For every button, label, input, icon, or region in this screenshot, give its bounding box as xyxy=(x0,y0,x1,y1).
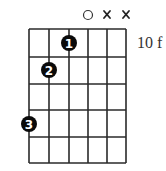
finger-dot-3: 3 xyxy=(21,116,37,132)
finger-dot-1: 1 xyxy=(61,35,77,51)
open-string-icon xyxy=(84,11,93,20)
muted-string-icon xyxy=(123,11,129,18)
finger-number: 2 xyxy=(45,64,53,78)
finger-dot-2: 2 xyxy=(41,62,57,78)
start-fret-label: 10 f xyxy=(137,34,162,52)
muted-string-icon xyxy=(104,11,110,18)
chord-diagram: 1 2 3 10 f xyxy=(0,0,166,171)
frets xyxy=(29,29,126,163)
chord-grid: 1 2 3 xyxy=(0,0,166,171)
finger-number: 1 xyxy=(65,37,73,51)
strings xyxy=(29,29,126,163)
finger-number: 3 xyxy=(25,118,33,132)
